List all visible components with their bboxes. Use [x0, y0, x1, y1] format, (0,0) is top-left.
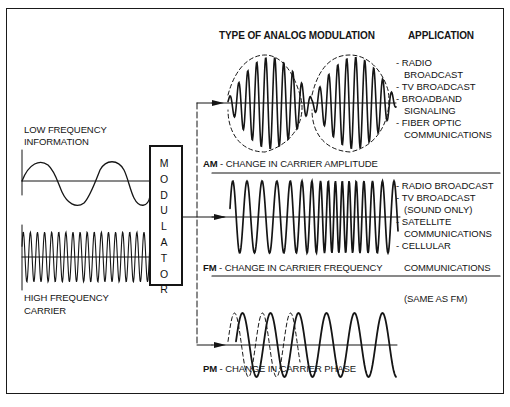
am-app-line: - RADIO [396, 57, 492, 69]
fm-app-line: - RADIO BROADCAST [396, 180, 494, 192]
am-caption: AM - CHANGE IN CARRIER AMPLITUDE [203, 158, 378, 170]
fm-app-line: - TV BROADCAST [396, 192, 494, 204]
low-frequency-wave [22, 150, 150, 205]
fm-applications: - RADIO BROADCAST - TV BROADCAST (SOUND … [396, 180, 494, 252]
am-app-line: COMMUNICATIONS [396, 129, 492, 141]
fm-caption: FM - CHANGE IN CARRIER FREQUENCY [203, 262, 382, 274]
fm-app-line: COMMUNICATIONS [404, 262, 491, 274]
am-applications: - RADIO BROADCAST - TV BROADCAST - BROAD… [396, 57, 492, 141]
am-app-line: - BROADBAND [396, 93, 492, 105]
pm-applications: (SAME AS FM) [404, 293, 467, 305]
am-app-line: - FIBER OPTIC [396, 117, 492, 129]
modulator-label: M O D U L A T O R [158, 156, 170, 298]
fm-app-line: - SATELLITE [396, 216, 494, 228]
carrier-wave [22, 225, 150, 290]
am-app-line: SIGNALING [396, 105, 492, 117]
am-app-line: BROADCAST [396, 69, 492, 81]
fm-app-line: (SOUND ONLY) [396, 204, 494, 216]
pm-caption: PM - CHANGE IN CARRIER PHASE [203, 363, 356, 375]
fm-app-line: - CELLULAR [396, 240, 494, 252]
am-app-line: - TV BROADCAST [396, 81, 492, 93]
fm-app-line: COMMUNICATIONS [396, 228, 494, 240]
